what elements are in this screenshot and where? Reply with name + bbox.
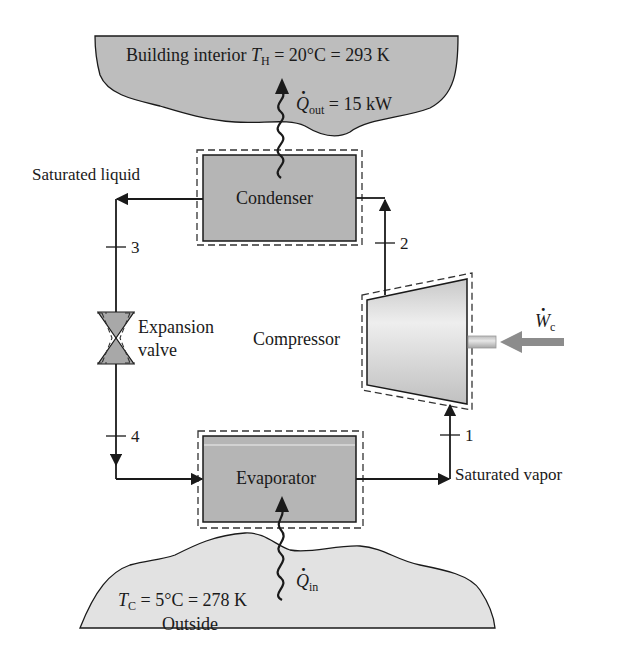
heat-out-label: Qout = 15 kW: [296, 95, 392, 116]
state-3-label: 3: [131, 239, 140, 256]
wc-symbol: W: [535, 312, 550, 330]
tc-symbol: T: [118, 590, 128, 610]
saturated-liquid-label: Saturated liquid: [32, 166, 140, 183]
state-1-label: 1: [465, 427, 474, 444]
wc-subscript: c: [550, 320, 555, 334]
qin-symbol: Q: [296, 572, 309, 590]
th-symbol: T: [251, 45, 261, 65]
tc-subscript: C: [128, 599, 136, 613]
qin-subscript: in: [309, 580, 318, 594]
building-interior-text: Building interior: [126, 45, 247, 65]
compressor-body: [367, 279, 467, 404]
work-input-label: Wc: [535, 312, 555, 333]
expansion-valve-label-line2: valve: [138, 341, 177, 359]
qout-value: = 15 kW: [329, 94, 392, 114]
expansion-valve-label-line1: Expansion: [138, 318, 214, 336]
evaporator-label: Evaporator: [236, 469, 316, 487]
condenser-label: Condenser: [236, 189, 313, 207]
heat-in-label: Qin: [296, 572, 318, 593]
saturated-vapor-label: Saturated vapor: [455, 466, 562, 483]
outside-label: Outside: [162, 615, 218, 633]
state-2-label: 2: [400, 235, 409, 252]
tc-value: = 5°C = 278 K: [141, 590, 248, 610]
outside-reservoir: [80, 533, 495, 628]
expansion-valve: [97, 312, 135, 364]
outside-temp-label: TC = 5°C = 278 K: [118, 591, 247, 612]
qout-subscript: out: [309, 103, 324, 117]
qout-symbol: Q: [296, 95, 309, 113]
th-value: = 20°C = 293 K: [274, 45, 390, 65]
state-4-label: 4: [131, 428, 140, 445]
building-interior-label: Building interior TH = 20°C = 293 K: [126, 46, 390, 67]
compressor-label: Compressor: [253, 330, 340, 348]
work-input-arrow: [500, 331, 564, 353]
compressor-shaft: [468, 336, 496, 348]
th-subscript: H: [261, 54, 270, 68]
